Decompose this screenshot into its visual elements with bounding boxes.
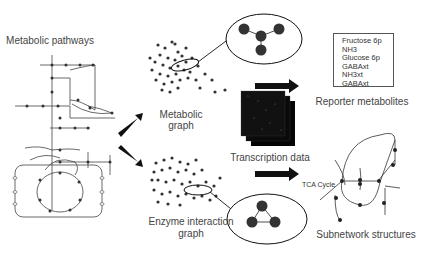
metabolic-graph-label-2: graph [152,120,210,131]
arrow-to-subnetwork [255,167,299,181]
pathway-side-ovals [13,177,104,206]
tca-cycle-label: TCA Cycle [302,181,335,188]
subnetwork-structures-label: Subnetwork structures [312,229,420,240]
subnetwork-nodes [334,148,397,222]
metabolic-graph-label-1: Metabolic [152,109,210,120]
enzyme-graph-inset [227,194,307,244]
enzyme-graph-label-1: Enzyme interaction [146,216,236,227]
transcription-data-sheets [241,91,295,146]
arrow-to-metabolic-graph [118,113,143,137]
arrow-to-enzyme-graph [118,145,143,167]
metabolic-graph-scatter [148,40,226,93]
reporter-metabolites-label: Reporter metabolites [306,96,418,107]
enzyme-graph-scatter [150,156,221,206]
transcription-data-label: Transcription data [228,152,312,163]
metabolite-item: GABAxt [342,80,393,89]
reporter-metabolites-box: Fructose 6p NH3 Glucose 6p GABAxt NH3xt … [333,33,394,87]
metabolic-pathway-nodes [26,64,114,213]
metabolic-pathways-label: Metabolic pathways [4,35,96,46]
enzyme-graph-label-2: graph [146,228,236,239]
